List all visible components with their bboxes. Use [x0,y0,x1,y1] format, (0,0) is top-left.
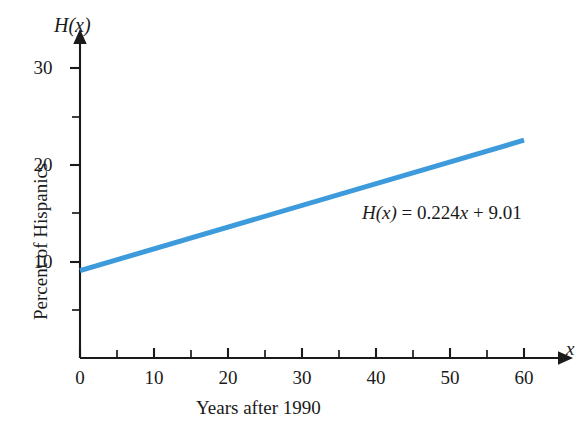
x-tick-label-50: 50 [435,368,465,387]
equation-fn: H [362,202,376,223]
equation-arg: (x) [376,202,397,223]
y-axis-minor-ticks [72,117,80,310]
chart-figure: H(x) x 30 20 10 0 10 20 30 40 50 60 Year… [0,0,586,432]
x-tick-label-40: 40 [361,368,391,387]
x-tick-label-20: 20 [213,368,243,387]
x-tick-label-10: 10 [139,368,169,387]
x-tick-label-60: 60 [509,368,539,387]
equation-var: x [460,202,468,223]
equation-tail: + 9.01 [468,202,521,223]
y-axis-variable-fn: H [54,14,68,36]
equation-eq: = 0.224 [397,202,460,223]
x-tick-label-0: 0 [65,368,95,387]
y-tick-label-30: 30 [28,58,58,77]
y-axis-caption: Percent of Hispanics [30,163,52,320]
equation-annotation: H(x) = 0.224x + 9.01 [362,202,522,224]
y-axis-variable-label: H(x) [54,15,91,35]
x-axis-variable-label: x [566,339,574,358]
y-axis-major-ticks [70,68,80,262]
x-axis-caption: Years after 1990 [196,398,321,417]
x-axis-major-ticks [80,348,524,358]
x-tick-label-30: 30 [287,368,317,387]
y-axis-variable-arg: (x) [68,14,90,36]
